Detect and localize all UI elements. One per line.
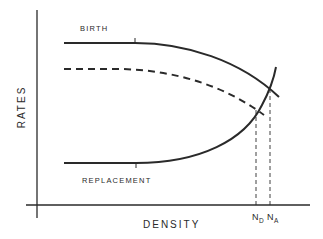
dashed-birth-curve	[64, 69, 264, 115]
na-label: N	[267, 212, 274, 222]
replacement-label: REPLACEMENT	[82, 176, 151, 185]
nd-label-subscript: D	[259, 217, 264, 224]
birth-curve	[64, 43, 279, 97]
nd-label: N	[252, 212, 259, 222]
replacement-curve	[64, 67, 276, 163]
birth-label: BIRTH	[80, 24, 108, 33]
density-rates-diagram: BIRTH REPLACEMENT DENSITY RATES N D N A	[0, 0, 323, 239]
na-label-subscript: A	[274, 217, 279, 224]
y-axis-label: RATES	[16, 86, 27, 129]
x-axis-label: DENSITY	[143, 219, 200, 230]
